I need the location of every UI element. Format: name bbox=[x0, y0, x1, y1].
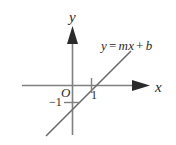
graph-figure: y x O 1 −1 y=mx+b bbox=[0, 0, 176, 145]
coordinate-plane-svg bbox=[0, 0, 176, 145]
equation-lhs: y bbox=[101, 38, 107, 53]
y-tick-label-negative-one: −1 bbox=[49, 96, 62, 108]
equation-b: b bbox=[146, 38, 153, 53]
plot-line-y-equals-mx-plus-b bbox=[46, 51, 131, 136]
line-equation-label: y=mx+b bbox=[101, 39, 152, 52]
x-axis-label: x bbox=[155, 80, 162, 95]
equation-plus: + bbox=[136, 38, 144, 53]
equation-m: m bbox=[119, 38, 129, 53]
x-tick-label-one: 1 bbox=[91, 89, 97, 101]
y-axis-label: y bbox=[69, 10, 76, 25]
equation-x: x bbox=[128, 38, 134, 53]
origin-label: O bbox=[61, 86, 70, 99]
x-axis-arrowhead bbox=[132, 80, 150, 91]
equation-equals: = bbox=[109, 38, 117, 53]
y-axis-arrowhead bbox=[67, 26, 78, 44]
